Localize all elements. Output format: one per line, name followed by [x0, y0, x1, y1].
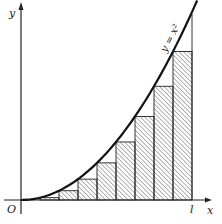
diagram-canvas: y x O l y = x²: [0, 0, 222, 224]
y-axis-arrow-icon: [19, 2, 24, 10]
x-axis-label: x: [207, 204, 214, 217]
riemann-rectangle: [97, 163, 116, 200]
riemann-rectangle: [116, 142, 135, 200]
riemann-rectangle: [154, 86, 173, 200]
riemann-rectangles: [23, 51, 192, 200]
curve-label: y = x²: [158, 22, 182, 55]
riemann-rectangle: [59, 191, 78, 200]
endpoint-label: l: [190, 203, 194, 216]
riemann-rectangle: [173, 51, 192, 200]
riemann-rectangle: [135, 116, 154, 200]
y-axis-label: y: [8, 7, 16, 20]
riemann-sum-diagram: y x O l y = x²: [0, 0, 222, 224]
x-axis-arrow-icon: [205, 198, 212, 203]
origin-label: O: [7, 203, 16, 216]
riemann-rectangle: [78, 179, 97, 200]
